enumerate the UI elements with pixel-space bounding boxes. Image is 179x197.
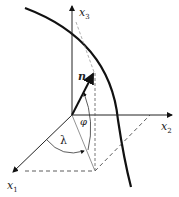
diagram-canvas: x3 x2 x1 n λ φ: [0, 0, 179, 197]
phi-label: φ: [80, 117, 87, 127]
n-label: n: [78, 71, 86, 82]
surface-curve: [25, 8, 131, 187]
light-dashed-x3: [76, 22, 94, 72]
x3-label: x3: [79, 7, 90, 21]
x2-label: x2: [161, 121, 172, 135]
diagram-svg: [0, 0, 179, 197]
x1-label: x1: [7, 180, 18, 194]
lambda-label: λ: [60, 135, 67, 146]
